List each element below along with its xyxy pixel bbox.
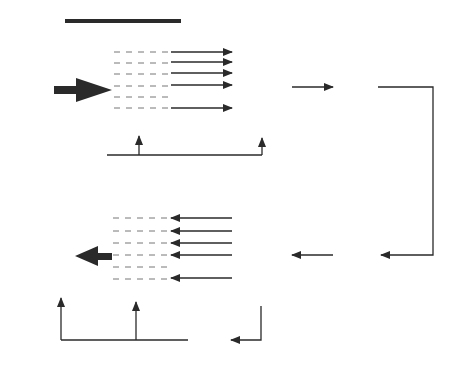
- elementary-stream-arrows-tx: [171, 52, 232, 108]
- transmitter-frame: [65, 19, 181, 23]
- connector-layer: [0, 0, 455, 382]
- decoder-to-presentation-arrow: [75, 246, 112, 266]
- transmission-channel-line: [378, 87, 433, 255]
- encoder-channel-dividers: [114, 52, 170, 108]
- rx-clock-lines: [61, 298, 261, 340]
- decoder-channel-dividers: [113, 218, 170, 279]
- source-label: [33, 31, 57, 161]
- source-input-arrow: [54, 78, 112, 102]
- elementary-stream-arrows-rx: [171, 218, 232, 278]
- tx-clock-lines: [107, 136, 262, 155]
